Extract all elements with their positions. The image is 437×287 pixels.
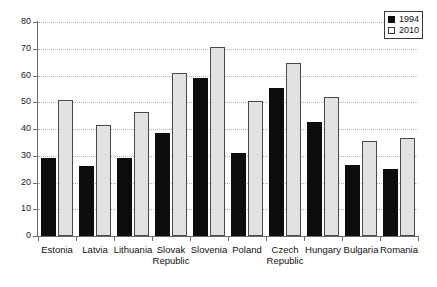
y-tick-mark <box>33 183 37 184</box>
x-tick-mark <box>114 237 115 241</box>
gridline <box>38 156 418 157</box>
x-tick-mark <box>38 237 39 241</box>
x-tick-mark <box>380 237 381 241</box>
plot-area <box>38 22 418 236</box>
y-tick-label: 70 <box>0 44 31 53</box>
bar-hungary-1994 <box>307 122 322 236</box>
legend-item-2010: 2010 <box>388 25 419 36</box>
gridline <box>38 49 418 50</box>
bar-latvia-2010 <box>96 125 111 236</box>
y-tick-label: 20 <box>0 178 31 187</box>
bar-slovak-republic-2010 <box>172 73 187 236</box>
bar-slovenia-2010 <box>210 47 225 236</box>
gridline <box>38 183 418 184</box>
bar-latvia-1994 <box>79 166 94 236</box>
x-tick-mark <box>76 237 77 241</box>
bar-estonia-1994 <box>41 158 56 236</box>
bar-poland-1994 <box>231 153 246 236</box>
bar-hungary-2010 <box>324 97 339 236</box>
bar-czech-republic-2010 <box>286 63 301 236</box>
y-tick-label: 10 <box>0 204 31 213</box>
x-tick-mark <box>228 237 229 241</box>
x-axis-label-romania: Romania <box>374 244 424 255</box>
y-tick-label: 50 <box>0 97 31 106</box>
legend-label-2010: 2010 <box>399 26 419 35</box>
gridline <box>38 209 418 210</box>
y-tick-mark <box>33 76 37 77</box>
bar-slovenia-1994 <box>193 78 208 236</box>
y-tick-mark <box>33 129 37 130</box>
y-tick-label: 40 <box>0 124 31 133</box>
bar-lithuania-1994 <box>117 158 132 236</box>
x-tick-mark <box>304 237 305 241</box>
bar-bulgaria-1994 <box>345 165 360 236</box>
bar-romania-2010 <box>400 138 415 236</box>
x-tick-mark <box>152 237 153 241</box>
bar-bulgaria-2010 <box>362 141 377 236</box>
bar-czech-republic-1994 <box>269 88 284 236</box>
y-tick-mark <box>33 49 37 50</box>
y-tick-mark <box>33 236 37 237</box>
legend-swatch-1994-icon <box>388 16 395 23</box>
bar-poland-2010 <box>248 101 263 236</box>
bar-chart: 01020304050607080 EstoniaLatviaLithuania… <box>0 0 437 287</box>
legend-label-1994: 1994 <box>399 15 419 24</box>
bar-estonia-2010 <box>58 100 73 236</box>
gridline <box>38 129 418 130</box>
x-tick-mark <box>266 237 267 241</box>
legend-swatch-2010-icon <box>388 27 395 34</box>
x-tick-mark <box>190 237 191 241</box>
y-tick-mark <box>33 156 37 157</box>
y-tick-mark <box>33 209 37 210</box>
y-tick-label: 80 <box>0 17 31 26</box>
gridline <box>38 22 418 23</box>
gridline <box>38 102 418 103</box>
y-tick-mark <box>33 102 37 103</box>
y-tick-label: 30 <box>0 151 31 160</box>
chart-legend: 1994 2010 <box>384 11 423 39</box>
x-tick-mark <box>418 237 419 241</box>
y-tick-mark <box>33 22 37 23</box>
x-tick-mark <box>342 237 343 241</box>
bar-romania-1994 <box>383 169 398 236</box>
y-tick-label: 60 <box>0 71 31 80</box>
bar-slovak-republic-1994 <box>155 133 170 236</box>
y-tick-label: 0 <box>0 231 31 240</box>
bar-lithuania-2010 <box>134 112 149 236</box>
gridline <box>38 76 418 77</box>
legend-item-1994: 1994 <box>388 14 419 25</box>
